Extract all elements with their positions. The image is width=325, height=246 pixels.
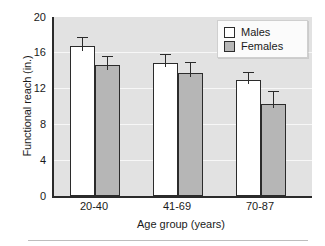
bar-males-41-69 xyxy=(153,63,178,196)
error-bar-females-20-40 xyxy=(107,56,108,70)
bar-females-20-40 xyxy=(95,65,120,196)
error-bar-males-41-69 xyxy=(165,54,166,67)
bar-females-41-69 xyxy=(178,73,203,196)
chart-legend: Males Females xyxy=(217,20,308,58)
y-tick-label-16: 16 xyxy=(20,47,46,58)
error-cap-males-41-69 xyxy=(160,54,171,55)
legend-item-females: Females xyxy=(224,39,302,53)
legend-swatch-males-icon xyxy=(224,27,235,38)
bar-females-70-87 xyxy=(261,104,286,196)
y-tick-label-12: 12 xyxy=(20,83,46,94)
bar-chart-figure: Functional reach (in.) 20 16 12 8 4 0 xyxy=(0,0,325,246)
error-cap-females-20-40 xyxy=(102,56,113,57)
y-tick-label-0: 0 xyxy=(20,191,46,202)
x-tick-label-20-40: 20-40 xyxy=(54,200,134,212)
legend-swatch-females-icon xyxy=(224,41,235,52)
y-tick-label-20: 20 xyxy=(20,12,46,23)
bottom-divider xyxy=(28,240,308,241)
legend-label-males: Males xyxy=(241,27,270,38)
error-bar-females-70-87 xyxy=(273,91,274,108)
y-tick-label-4: 4 xyxy=(20,155,46,166)
error-bar-males-20-40 xyxy=(82,37,83,51)
x-tick-label-70-87: 70-87 xyxy=(220,200,300,212)
x-axis-label: Age group (years) xyxy=(52,218,310,230)
y-tick-label-8: 8 xyxy=(20,119,46,130)
error-cap-females-70-87 xyxy=(268,91,279,92)
error-bar-females-41-69 xyxy=(190,62,191,77)
bar-males-70-87 xyxy=(236,80,261,196)
error-cap-females-41-69 xyxy=(185,62,196,63)
bar-males-20-40 xyxy=(70,46,95,196)
error-bar-males-70-87 xyxy=(248,72,249,84)
error-cap-males-20-40 xyxy=(77,37,88,38)
legend-item-males: Males xyxy=(224,25,302,39)
y-axis-label: Functional reach (in.) xyxy=(21,16,33,196)
legend-label-females: Females xyxy=(241,41,283,52)
x-tick-label-41-69: 41-69 xyxy=(137,200,217,212)
error-cap-males-70-87 xyxy=(243,72,254,73)
